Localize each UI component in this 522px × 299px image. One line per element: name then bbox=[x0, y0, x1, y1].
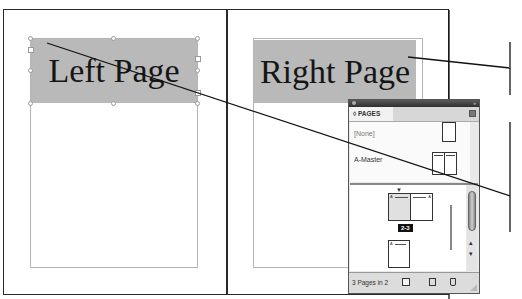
panel-menu-icon[interactable] bbox=[469, 110, 476, 117]
pages-scrollbar[interactable]: ▴ ▾ bbox=[467, 185, 477, 271]
selection-handle[interactable] bbox=[111, 36, 116, 41]
master-none-label: [None] bbox=[354, 130, 375, 137]
panel-titlebar[interactable]: » bbox=[349, 100, 479, 107]
page-4-thumb[interactable]: A bbox=[388, 240, 410, 268]
scrollbar-thumb[interactable] bbox=[468, 191, 476, 231]
panel-tab-bar: ◊ PAGES bbox=[349, 107, 479, 122]
new-master-icon[interactable] bbox=[429, 278, 436, 286]
selection-handle[interactable] bbox=[195, 68, 200, 73]
master-a-label: A-Master bbox=[354, 156, 382, 163]
selection-handle[interactable] bbox=[195, 101, 200, 106]
new-page-icon[interactable] bbox=[402, 278, 410, 286]
pages-panel: » ◊ PAGES [None] A-Master ▼ A A 2-3 A bbox=[348, 99, 480, 294]
out-port-icon[interactable] bbox=[195, 90, 201, 96]
spread-spine bbox=[226, 10, 228, 295]
tab-pages[interactable]: ◊ PAGES bbox=[349, 107, 393, 121]
left-page-text-frame[interactable]: Left Page bbox=[31, 39, 197, 103]
master-a[interactable]: A-Master bbox=[354, 152, 464, 176]
panel-footer: 3 Pages in 2 bbox=[349, 272, 479, 293]
masters-section: [None] A-Master bbox=[350, 122, 470, 182]
scroll-up-icon[interactable]: ▴ bbox=[469, 239, 473, 246]
out-port-icon[interactable] bbox=[195, 56, 201, 62]
master-a-right-thumb[interactable] bbox=[444, 152, 457, 175]
right-page-text-frame[interactable]: Right Page bbox=[254, 40, 416, 103]
pages-section: ▼ A A 2-3 A bbox=[350, 185, 466, 271]
master-none-thumb[interactable] bbox=[442, 122, 456, 142]
selection-handle[interactable] bbox=[111, 101, 116, 106]
left-page-text: Left Page bbox=[48, 52, 179, 90]
resize-grip-icon[interactable] bbox=[470, 284, 477, 291]
spread-badge: 2-3 bbox=[398, 224, 413, 232]
selection-handle[interactable] bbox=[28, 68, 33, 73]
page-count-status: 3 Pages in 2 bbox=[352, 273, 388, 293]
page-2-thumb[interactable]: A bbox=[388, 193, 411, 221]
selection-handle[interactable] bbox=[28, 36, 33, 41]
right-page-text: Right Page bbox=[260, 53, 410, 91]
close-icon[interactable] bbox=[352, 101, 356, 105]
trash-icon[interactable] bbox=[450, 278, 456, 286]
page-3-thumb[interactable]: A bbox=[410, 193, 433, 221]
selection-handle[interactable] bbox=[195, 36, 200, 41]
in-port-icon[interactable] bbox=[28, 47, 34, 53]
collapse-icon[interactable]: » bbox=[473, 100, 476, 107]
master-none[interactable]: [None] bbox=[354, 128, 464, 146]
selection-handle[interactable] bbox=[28, 101, 33, 106]
scroll-down-icon[interactable]: ▾ bbox=[469, 250, 473, 257]
